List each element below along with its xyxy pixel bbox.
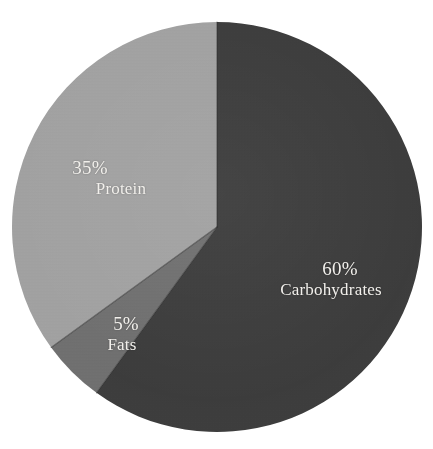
pie-chart-canvas	[0, 0, 433, 449]
pie-chart-figure: 60% Carbohydrates 35% Protein 5% Fats	[0, 0, 433, 449]
